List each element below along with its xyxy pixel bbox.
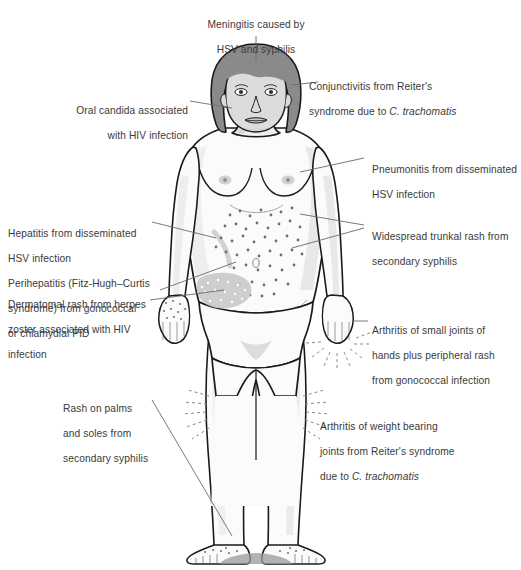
label-dermatomal-rash-line1: Dermatomal rash from herpes: [8, 299, 146, 310]
label-trunkal-rash-line2: secondary syphilis: [372, 256, 457, 267]
label-oral-candida: Oral candida associated with HIV infecti…: [20, 92, 188, 142]
label-meningitis: Meningitis caused by HSV and syphilis: [176, 6, 336, 56]
label-knee-arthritis-line2: joints from Reiter's syndrome: [320, 446, 455, 457]
label-trunkal-rash-line1: Widespread trunkal rash from: [372, 231, 508, 242]
label-pneumonitis-line1: Pneumonitis from disseminated: [372, 164, 517, 175]
label-hand-arthritis: Arthritis of small joints of hands plus …: [372, 312, 514, 388]
label-palms-soles-line3: secondary syphilis: [63, 453, 148, 464]
label-palms-soles-rash: Rash on palms and soles from secondary s…: [63, 390, 173, 466]
label-conjunctivitis: Conjunctivitis from Reiter's syndrome du…: [309, 68, 509, 118]
knee-pain-lines-left: [183, 390, 209, 439]
label-trunkal-rash: Widespread trunkal rash from secondary s…: [372, 218, 518, 268]
label-meningitis-line1: Meningitis caused by: [207, 19, 304, 30]
label-dermatomal-rash: Dermatomal rash from herpes zoster assoc…: [8, 286, 176, 362]
label-conjunctivitis-organism: C. trachomatis: [389, 106, 456, 117]
label-palms-soles-line1: Rash on palms: [63, 403, 132, 414]
label-conjunctivitis-line1: Conjunctivitis from Reiter's: [309, 81, 432, 92]
feet: [187, 545, 325, 564]
label-knee-arthritis-line3: due to: [320, 471, 352, 482]
label-knee-arthritis: Arthritis of weight bearing joints from …: [320, 408, 495, 484]
label-hand-arthritis-line2: hands plus peripheral rash: [372, 350, 495, 361]
label-oral-candida-line1: Oral candida associated: [76, 105, 188, 116]
label-hand-arthritis-line1: Arthritis of small joints of: [372, 325, 485, 336]
eye-pupil: [239, 90, 243, 94]
label-dermatomal-rash-line3: infection: [8, 349, 47, 360]
label-palms-soles-line2: and soles from: [63, 428, 131, 439]
label-dermatomal-rash-line2: zoster associated with HIV: [8, 324, 131, 335]
body-figure: [159, 44, 372, 564]
label-pneumonitis: Pneumonitis from disseminated HSV infect…: [372, 151, 521, 201]
label-knee-arthritis-organism: C. trachomatis: [352, 471, 419, 482]
label-knee-arthritis-line1: Arthritis of weight bearing: [320, 421, 438, 432]
label-hand-arthritis-line3: from gonococcal infection: [372, 375, 490, 386]
label-hepatitis-line1: Hepatitis from disseminated: [8, 228, 136, 239]
label-hepatitis-line2: HSV infection: [8, 253, 71, 264]
torso: [185, 128, 327, 506]
label-pneumonitis-line2: HSV infection: [372, 189, 435, 200]
label-conjunctivitis-line2: syndrome due to: [309, 106, 389, 117]
label-oral-candida-line2: with HIV infection: [107, 130, 188, 141]
label-meningitis-line2: HSV and syphilis: [217, 44, 296, 55]
